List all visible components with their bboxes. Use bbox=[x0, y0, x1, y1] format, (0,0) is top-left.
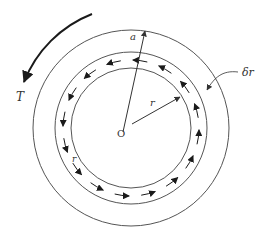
ring-shear-arrow bbox=[64, 138, 68, 152]
ring-arrows bbox=[63, 60, 199, 196]
ring-radius-label-left: r bbox=[72, 154, 77, 164]
ring-shear-arrow bbox=[197, 130, 199, 145]
ring-shear-arrow bbox=[195, 104, 199, 118]
ring-shear-arrow bbox=[141, 192, 155, 196]
ring-radius-line bbox=[132, 97, 180, 124]
ring-shear-arrow bbox=[159, 66, 172, 73]
torque-arrow bbox=[24, 14, 92, 82]
torque-label: T bbox=[16, 90, 25, 104]
ring-radius-label: r bbox=[150, 97, 156, 108]
ring-thickness-label: δr bbox=[242, 66, 255, 79]
outer-radius-label: a bbox=[130, 31, 136, 42]
ring-shear-arrow bbox=[115, 194, 130, 196]
outer-circle bbox=[33, 30, 229, 226]
ring-shear-arrow bbox=[186, 156, 193, 169]
outer-radius-line bbox=[123, 31, 145, 132]
ring-shear-arrow bbox=[73, 163, 82, 175]
ring-shear-arrow bbox=[133, 60, 148, 62]
ring-shear-arrow bbox=[91, 183, 104, 190]
ring-outer-circle bbox=[55, 52, 207, 204]
ring-shear-arrow bbox=[84, 70, 96, 79]
ring-shear-arrow bbox=[107, 61, 121, 65]
center-label: O bbox=[117, 128, 125, 139]
torsion-diagram: T a r r O δr bbox=[0, 0, 270, 236]
ring-thickness-leader bbox=[207, 72, 238, 90]
ring-shear-arrow bbox=[166, 177, 178, 186]
ring-shear-arrow bbox=[69, 88, 76, 101]
ring-shear-arrow bbox=[180, 81, 189, 93]
ring-inner-circle bbox=[71, 68, 191, 188]
ring-shear-arrow bbox=[63, 112, 65, 127]
